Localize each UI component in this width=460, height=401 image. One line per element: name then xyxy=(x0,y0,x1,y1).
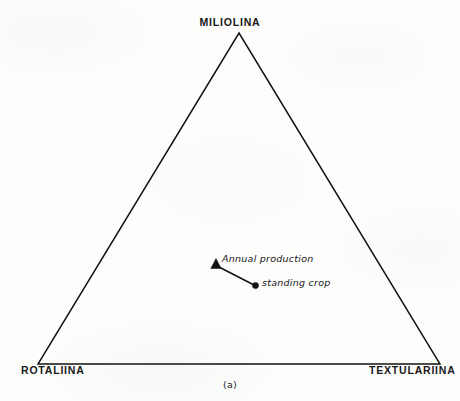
figure-page: MILIOLINA ROTALIINA TEXTULARIINA Annual … xyxy=(0,0,460,401)
ternary-triangle-outline xyxy=(38,33,440,364)
marker-annual-production[interactable] xyxy=(211,259,221,269)
point-label-standing-crop: standing crop xyxy=(262,277,330,288)
vertex-label-textulariina: TEXTULARIINA xyxy=(369,364,456,376)
point-label-annual-production: Annual production xyxy=(222,253,314,264)
data-point-connector-line xyxy=(217,266,254,285)
ternary-plot-svg xyxy=(0,0,460,401)
marker-standing-crop[interactable] xyxy=(252,282,258,288)
vertex-label-miliolina: MILIOLINA xyxy=(0,16,460,28)
figure-caption: (a) xyxy=(0,379,460,390)
vertex-label-rotaliina: ROTALIINA xyxy=(21,364,85,376)
